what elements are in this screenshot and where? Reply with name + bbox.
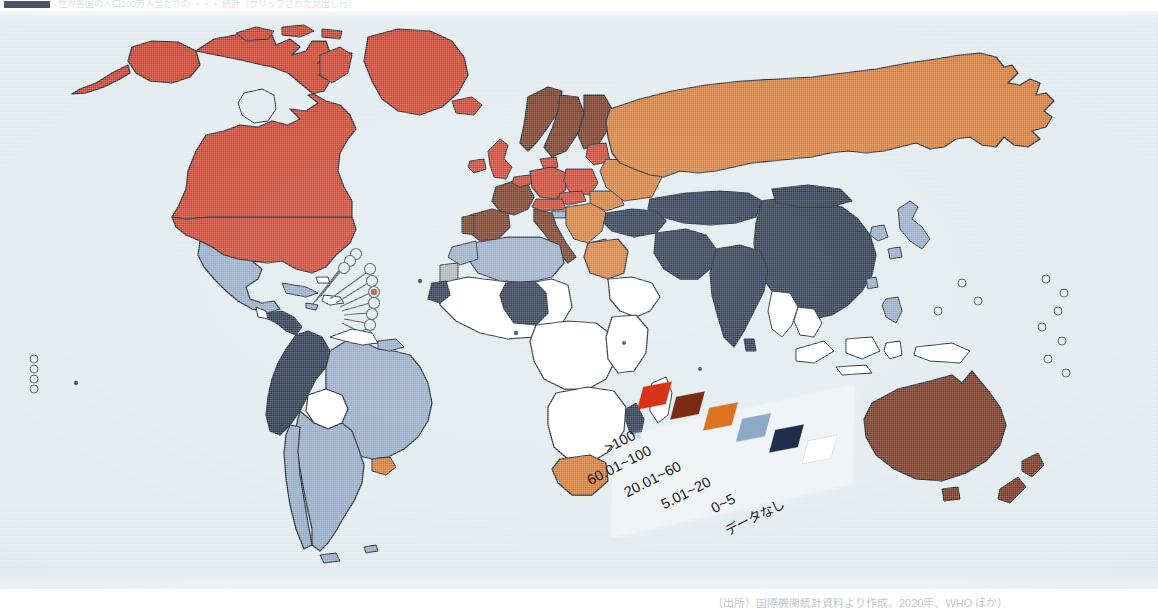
region-sri-lanka [744,339,756,351]
region-tierra-del-fuego [320,553,340,563]
figure-header-text: 世界各国の人口100万人当たりの ・・・ 統計（クリップされた見出し行） [58,0,578,9]
legend-swatch-1 [670,391,705,419]
region-arctic-islands-c [322,29,342,39]
region-tasmania [942,487,960,501]
region-taiwan [866,277,878,289]
region-bahamas [316,277,330,283]
figure-header-strip: 世界各国の人口100万人当たりの ・・・ 統計（クリップされた見出し行） [0,0,1158,11]
world-map-svg: .c{stroke:#101c28;stroke-width:1.25;stro… [0,11,1158,589]
world-map: .c{stroke:#101c28;stroke-width:1.25;stro… [0,11,1158,589]
region-falklands [364,545,378,553]
region-slovenia [552,211,566,218]
figure-source-strip: （出所）国際機関統計資料より作成。2020年、WHO ほか） [0,589,1158,611]
figure-page: 世界各国の人口100万人当たりの ・・・ 統計（クリップされた見出し行） .c{… [0,0,1158,611]
figure-source-text: （出所）国際機関統計資料より作成。2020年、WHO ほか） [712,598,1152,610]
region-egypt [584,239,628,279]
caribbean-callout-filled [371,289,377,295]
region-japan-south [888,247,902,259]
figure-number-marker [4,1,50,8]
map-legend: >100 60.01~100 20.01~60 5.01~20 0~5 データな… [600,369,870,519]
legend-swatch-0 [637,381,672,409]
region-portugal [462,215,474,235]
